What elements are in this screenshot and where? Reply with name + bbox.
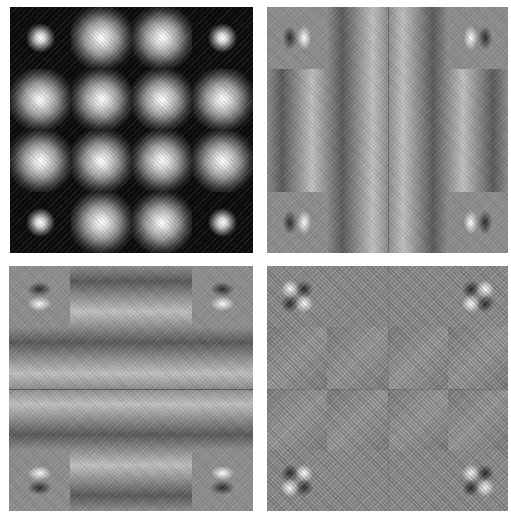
noise-overlay [10, 7, 253, 253]
panel-y-derivative [9, 266, 253, 511]
panel-gaussian-blobs [10, 7, 253, 253]
noise-overlay [267, 266, 508, 511]
noise-overlay [9, 266, 253, 511]
panel-xy-derivative [267, 266, 508, 511]
noise-overlay [267, 7, 508, 253]
panel-x-derivative [267, 7, 508, 253]
